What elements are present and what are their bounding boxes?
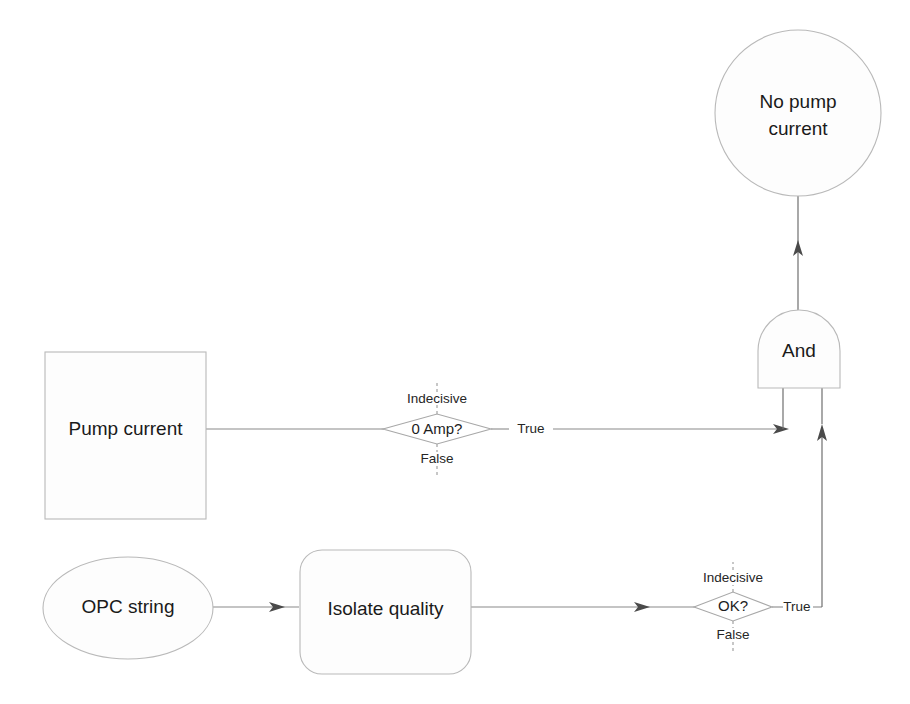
node-and-gate[interactable]: And xyxy=(758,310,840,388)
zero-amp-indecisive-label: Indecisive xyxy=(407,391,467,406)
decision-ok[interactable]: OK? Indecisive False True xyxy=(694,570,811,642)
node-isolate-quality[interactable]: Isolate quality xyxy=(300,550,471,674)
zero-amp-true-label: True xyxy=(517,421,544,436)
zero-amp-label: 0 Amp? xyxy=(412,420,463,437)
zero-amp-false-label: False xyxy=(420,451,453,466)
flow-diagram-svg: No pump current And Pump current OPC str… xyxy=(0,0,910,704)
ok-true-label: True xyxy=(783,599,810,614)
ok-label: OK? xyxy=(718,597,748,614)
no-pump-current-circle-shape xyxy=(715,30,881,196)
opc-string-label: OPC string xyxy=(82,596,175,617)
no-pump-current-label-line1: No pump xyxy=(759,91,836,112)
node-pump-current[interactable]: Pump current xyxy=(45,352,206,519)
flow-diagram-canvas: No pump current And Pump current OPC str… xyxy=(0,0,910,704)
pump-current-label: Pump current xyxy=(68,418,183,439)
ok-false-label: False xyxy=(716,627,749,642)
isolate-quality-label: Isolate quality xyxy=(327,598,444,619)
ok-indecisive-label: Indecisive xyxy=(703,570,763,585)
node-no-pump-current[interactable]: No pump current xyxy=(715,30,881,196)
no-pump-current-label-line2: current xyxy=(768,118,828,139)
node-opc-string[interactable]: OPC string xyxy=(43,557,213,659)
and-gate-label: And xyxy=(782,340,816,361)
decision-zero-amp[interactable]: 0 Amp? Indecisive False True xyxy=(383,391,545,466)
